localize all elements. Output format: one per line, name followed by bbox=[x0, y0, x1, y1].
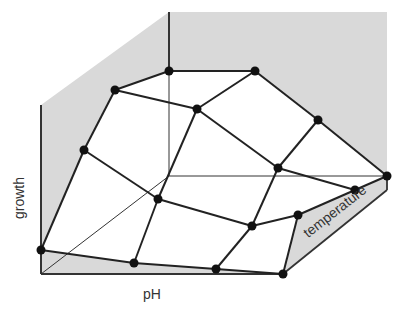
grid-edge bbox=[134, 199, 158, 263]
grid-edge bbox=[278, 120, 318, 168]
grid-edge bbox=[158, 199, 252, 226]
back-wall-right bbox=[169, 12, 387, 176]
grid-node bbox=[279, 270, 288, 279]
grid-edge bbox=[216, 226, 252, 269]
grid-edge bbox=[252, 168, 278, 226]
grid-node bbox=[130, 259, 139, 268]
floor-wall-right bbox=[283, 176, 387, 274]
grid-node bbox=[37, 246, 46, 255]
grid-edge bbox=[197, 71, 255, 109]
grid-edge bbox=[252, 215, 298, 226]
grid-edge bbox=[158, 109, 197, 199]
grid-edge bbox=[197, 109, 278, 168]
surface-diagram: pH growth temperature bbox=[0, 0, 412, 316]
grid-node bbox=[165, 67, 174, 76]
grid-node bbox=[294, 211, 303, 220]
grid-edge bbox=[84, 150, 158, 199]
grid-node bbox=[212, 265, 221, 274]
back-wall-left bbox=[41, 12, 169, 250]
grid-edge bbox=[115, 90, 197, 109]
grid-edge bbox=[278, 168, 355, 190]
grid-node bbox=[251, 67, 260, 76]
y-axis-label: growth bbox=[11, 177, 27, 219]
grid-node bbox=[111, 86, 120, 95]
grid-node bbox=[314, 116, 323, 125]
grid-node bbox=[80, 146, 89, 155]
grid-node bbox=[274, 164, 283, 173]
grid-node bbox=[154, 195, 163, 204]
grid-node bbox=[193, 105, 202, 114]
grid-node bbox=[248, 222, 257, 231]
grid-node bbox=[383, 172, 392, 181]
x-axis-label: pH bbox=[143, 286, 161, 302]
surface-plot bbox=[0, 0, 412, 316]
